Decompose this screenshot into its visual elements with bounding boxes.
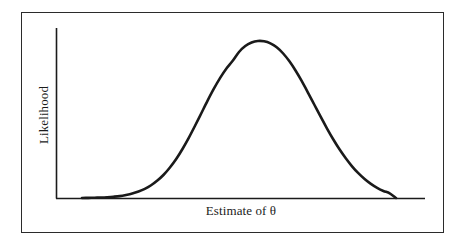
x-axis-label: Estimate of θ [57,203,425,219]
figure-root: Likelihood Estimate of θ [0,0,464,247]
figure-border [21,12,444,233]
y-axis-label: Likelihood [36,55,52,175]
